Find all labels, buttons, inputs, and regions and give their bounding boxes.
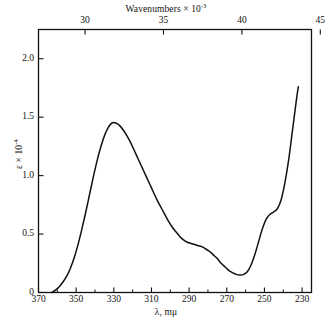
spectrum-curve [52, 87, 299, 293]
x-tick-label-330: 330 [94, 294, 134, 304]
y-tick-label-2.0: 2.0 [0, 53, 34, 63]
plot-frame [39, 30, 312, 293]
x-tick-label-230: 230 [282, 294, 322, 304]
x-tick-label-350: 350 [56, 294, 96, 304]
spectrum-figure: Wavenumbers × 10-3 λ, mμ ε × 10-4 370350… [0, 0, 332, 324]
top-x-tick-label-30: 30 [65, 15, 105, 25]
plot-canvas [0, 0, 332, 324]
y-tick-label-1.5: 1.5 [0, 111, 34, 121]
top-x-tick-label-45: 45 [300, 15, 332, 25]
axis-ticks [39, 30, 321, 293]
y-tick-label-0.5: 0.5 [0, 228, 34, 238]
top-x-tick-label-40: 40 [222, 15, 262, 25]
x-tick-label-290: 290 [169, 294, 209, 304]
top-x-tick-label-35: 35 [143, 15, 183, 25]
x-tick-label-250: 250 [244, 294, 284, 304]
x-tick-label-310: 310 [131, 294, 171, 304]
x-tick-label-270: 270 [207, 294, 247, 304]
y-tick-label-0: 0 [0, 287, 34, 297]
y-tick-label-1.0: 1.0 [0, 170, 34, 180]
